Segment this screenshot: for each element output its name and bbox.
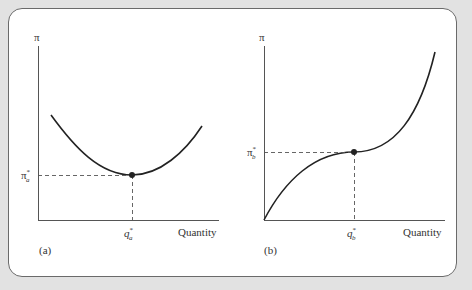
star: * [130,226,134,234]
subscript: a [26,176,30,184]
subscript: b [352,234,356,242]
panel-a-pi-star-label: π*a [21,168,30,184]
subscript: b [252,153,256,161]
panel-b-inflection-point [351,149,357,155]
panel-b-pi-star-label: π*b [247,145,256,161]
panel-a-x-axis-label: Quantity [178,226,217,238]
panel-a-y-axis-label: π [34,31,40,43]
panel-a-q-star-label: q*a [124,226,133,242]
panel-b-q-star-label: q*b [347,226,356,242]
chart-canvas [0,0,472,290]
panel-a-guides [38,175,133,220]
panel-b-x-axis-label: Quantity [403,226,442,238]
panel-b-curve [264,52,435,220]
panel-a-optimum-point [129,172,135,178]
panel-b-y-axis-label: π [259,31,265,43]
star: * [27,168,31,176]
panel-b-tag: (b) [264,244,277,256]
star: * [353,226,357,234]
panel-a-curve [51,115,202,175]
subscript: a [129,234,133,242]
panel-a-tag: (a) [39,244,51,256]
star: * [253,145,257,153]
panel-b-guides [264,152,355,220]
